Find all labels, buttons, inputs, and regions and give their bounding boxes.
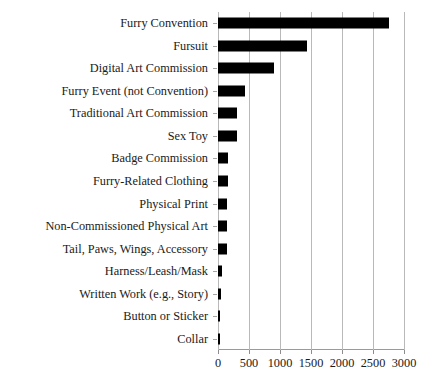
category-label: Digital Art Commission bbox=[90, 62, 208, 75]
x-tick-label: 3000 bbox=[392, 356, 417, 370]
category-axis-labels: Furry ConventionFursuitDigital Art Commi… bbox=[0, 0, 213, 350]
x-tick-mark bbox=[249, 350, 250, 354]
y-tick-mark bbox=[213, 181, 217, 182]
bar bbox=[218, 288, 221, 299]
x-tick-mark bbox=[280, 350, 281, 354]
y-tick-mark bbox=[213, 91, 217, 92]
y-tick-mark bbox=[213, 113, 217, 114]
category-label: Harness/Leash/Mask bbox=[105, 265, 208, 278]
x-tick-label: 500 bbox=[240, 356, 258, 370]
category-label: Traditional Art Commission bbox=[70, 107, 208, 120]
x-tick-label: 2500 bbox=[361, 356, 386, 370]
category-label: Badge Commission bbox=[111, 152, 208, 165]
y-tick-mark bbox=[213, 226, 217, 227]
y-tick-mark bbox=[213, 339, 217, 340]
category-label: Sex Toy bbox=[168, 129, 208, 142]
bar bbox=[218, 311, 220, 322]
category-label: Non-Commissioned Physical Art bbox=[45, 220, 208, 233]
x-tick-mark bbox=[311, 350, 312, 354]
x-tick-label: 0 bbox=[215, 356, 221, 370]
category-label: Button or Sticker bbox=[123, 310, 208, 323]
y-tick-mark bbox=[213, 46, 217, 47]
y-tick-mark bbox=[213, 136, 217, 137]
bar bbox=[218, 198, 227, 209]
bar bbox=[218, 63, 274, 74]
gridline bbox=[311, 12, 312, 350]
y-tick-mark bbox=[213, 158, 217, 159]
x-tick-label: 2000 bbox=[330, 356, 355, 370]
bar bbox=[218, 40, 307, 51]
bar bbox=[218, 85, 245, 96]
x-tick-mark bbox=[218, 350, 219, 354]
bar bbox=[218, 153, 228, 164]
y-tick-mark bbox=[213, 23, 217, 24]
category-label: Furry Convention bbox=[120, 17, 208, 30]
category-label: Tail, Paws, Wings, Accessory bbox=[63, 242, 208, 255]
plot-area bbox=[218, 12, 404, 350]
x-tick-mark bbox=[373, 350, 374, 354]
bar-chart: Furry ConventionFursuitDigital Art Commi… bbox=[0, 0, 429, 387]
gridline bbox=[280, 12, 281, 350]
y-tick-mark bbox=[213, 68, 217, 69]
bar bbox=[218, 18, 389, 29]
category-label: Fursuit bbox=[173, 39, 208, 52]
bar bbox=[218, 130, 237, 141]
bar bbox=[218, 243, 227, 254]
category-label: Furry Event (not Convention) bbox=[61, 84, 208, 97]
bar bbox=[218, 221, 227, 232]
bar bbox=[218, 266, 222, 277]
category-label: Written Work (e.g., Story) bbox=[79, 287, 208, 300]
x-tick-label: 1500 bbox=[299, 356, 324, 370]
y-tick-mark bbox=[213, 271, 217, 272]
y-tick-mark bbox=[213, 294, 217, 295]
bar bbox=[218, 333, 220, 344]
gridline bbox=[342, 12, 343, 350]
category-label: Collar bbox=[177, 332, 208, 345]
bar bbox=[218, 176, 228, 187]
x-tick-label: 1000 bbox=[268, 356, 293, 370]
y-tick-mark bbox=[213, 204, 217, 205]
category-label: Furry-Related Clothing bbox=[93, 175, 208, 188]
bar bbox=[218, 108, 237, 119]
y-tick-mark bbox=[213, 249, 217, 250]
gridline bbox=[404, 12, 405, 350]
y-tick-mark bbox=[213, 316, 217, 317]
x-tick-mark bbox=[404, 350, 405, 354]
x-tick-mark bbox=[342, 350, 343, 354]
gridline bbox=[373, 12, 374, 350]
category-label: Physical Print bbox=[139, 197, 208, 210]
